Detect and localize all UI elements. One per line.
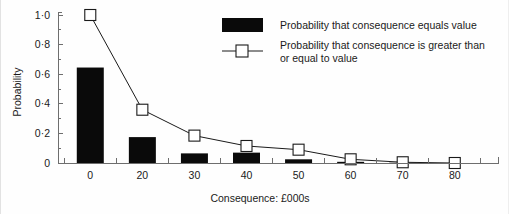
axes: [58, 12, 498, 163]
x-tick-label-20: 20: [137, 169, 149, 181]
x-tick-label-50: 50: [293, 169, 305, 181]
marker-20: [137, 104, 148, 115]
marker-50: [293, 144, 304, 155]
marker-0: [85, 10, 96, 21]
y-tick-label-0: 0: [44, 157, 50, 169]
plot-area: [77, 10, 461, 169]
x-tick-label-70: 70: [397, 169, 409, 181]
y-axis-spine: [58, 12, 62, 163]
legend-swatch-bar: [222, 18, 263, 32]
x-tick-label-80: 80: [449, 169, 461, 181]
bar-0: [77, 68, 104, 163]
marker-70: [397, 157, 408, 168]
x-tick-label-30: 30: [189, 169, 201, 181]
y-tick-label-1·0: 1·0: [35, 9, 50, 21]
x-tick-label-60: 60: [345, 169, 357, 181]
bar-30: [181, 153, 208, 163]
bar-20: [129, 137, 156, 163]
x-tick-label-0: 0: [87, 169, 93, 181]
marker-30: [189, 130, 200, 141]
y-tick-label-0·4: 0·4: [35, 97, 50, 109]
x-axis-title: Consequence: £000s: [210, 192, 309, 204]
x-tick-labels: 020304050607080: [87, 169, 460, 181]
y-axis-title: Probability: [11, 67, 23, 117]
x-tick-label-40: 40: [241, 169, 253, 181]
bar-50: [285, 159, 312, 163]
legend: Probability that consequence equals valu…: [222, 18, 485, 64]
chart-figure: 00·20·40·60·81·0 020304050607080 Probabi…: [0, 0, 509, 214]
y-tick-label-0·8: 0·8: [35, 38, 50, 50]
y-tick-labels: 00·20·40·60·81·0: [35, 9, 50, 169]
y-tick-label-0·2: 0·2: [35, 127, 50, 139]
marker-40: [241, 140, 252, 151]
legend-marker-open-square: [236, 45, 248, 57]
legend-label-gte-line1: Probability that consequence is greater …: [280, 39, 485, 51]
x-axis-spine: [58, 157, 498, 163]
probability-chart: 00·20·40·60·81·0 020304050607080 Probabi…: [1, 0, 509, 214]
bar-40: [233, 153, 260, 163]
legend-label-gte-line2: or equal to value: [280, 52, 358, 64]
y-tick-label-0·6: 0·6: [35, 68, 50, 80]
legend-label-equals: Probability that consequence equals valu…: [280, 19, 477, 31]
